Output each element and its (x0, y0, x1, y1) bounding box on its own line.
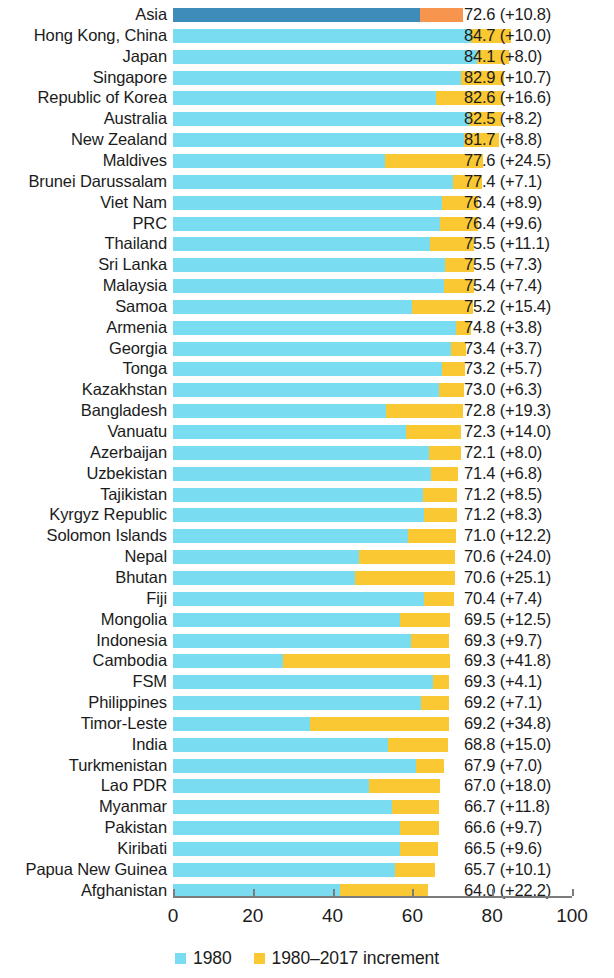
row-value-label: 74.8 (+3.8) (464, 317, 542, 338)
bar-segment-1980 (173, 383, 439, 397)
row-label-tonga: Tonga (123, 358, 167, 379)
bar-segment-1980 (173, 217, 440, 231)
bar-segment-increment (369, 779, 441, 793)
bar-segment-1980 (173, 654, 283, 668)
row-label-hong-kong-china: Hong Kong, China (34, 25, 167, 46)
row-value-label: 67.0 (+18.0) (464, 775, 551, 796)
bar-segment-increment (431, 467, 458, 481)
bar-segment-1980 (173, 842, 400, 856)
bar-segment-increment (408, 529, 457, 543)
row-label-timor-leste: Timor-Leste (81, 713, 167, 734)
row-label-japan: Japan (123, 46, 167, 67)
row-value-label: 71.2 (+8.5) (464, 484, 542, 505)
chart-row: Myanmar66.7 (+11.8) (0, 796, 614, 817)
row-value-label: 84.1 (+8.0) (464, 46, 542, 67)
chart-row: Malaysia75.4 (+7.4) (0, 275, 614, 296)
bar-segment-1980 (173, 175, 453, 189)
row-label-thailand: Thailand (105, 233, 168, 254)
bar-segment-increment (400, 821, 439, 835)
row-label-uzbekistan: Uzbekistan (86, 463, 167, 484)
row-value-label: 75.2 (+15.4) (464, 296, 551, 317)
bar-segment-1980 (173, 8, 420, 22)
bar-segment-increment (424, 592, 454, 606)
chart-row: Turkmenistan67.9 (+7.0) (0, 755, 614, 776)
bar-segment-increment (442, 362, 465, 376)
x-axis: 020406080100 (173, 896, 572, 897)
bar-segment-increment (420, 8, 463, 22)
bar-segment-1980 (173, 634, 411, 648)
chart-row: Samoa75.2 (+15.4) (0, 296, 614, 317)
row-value-label: 71.2 (+8.3) (464, 504, 542, 525)
bar-segment-increment (411, 634, 450, 648)
bar-segment-increment (400, 842, 438, 856)
chart-row: New Zealand81.7 (+8.8) (0, 129, 614, 150)
chart-row: FSM69.3 (+4.1) (0, 671, 614, 692)
row-label-asia: Asia (135, 4, 167, 25)
row-label-samoa: Samoa (115, 296, 167, 317)
chart-row: Hong Kong, China84.7 (+10.0) (0, 25, 614, 46)
row-label-fiji: Fiji (146, 588, 167, 609)
chart-row: Tajikistan71.2 (+8.5) (0, 484, 614, 505)
bar-segment-increment (395, 863, 435, 877)
bar-segment-1980 (173, 613, 400, 627)
bar-segment-increment (400, 613, 450, 627)
bar-segment-increment (421, 696, 449, 710)
x-axis-tick-label: 80 (482, 905, 503, 927)
row-value-label: 69.5 (+12.5) (464, 609, 551, 630)
chart-row: Australia82.5 (+8.2) (0, 108, 614, 129)
row-label-kiribati: Kiribati (117, 838, 167, 859)
bar-segment-1980 (173, 592, 424, 606)
bar-segment-increment (439, 383, 464, 397)
row-value-label: 82.6 (+16.6) (464, 87, 551, 108)
x-axis-tick (333, 889, 335, 896)
chart-row: Azerbaijan72.1 (+8.0) (0, 442, 614, 463)
legend-label: 1980 (193, 948, 232, 969)
chart-row: Asia72.6 (+10.8) (0, 4, 614, 25)
row-label-prc: PRC (132, 213, 167, 234)
chart-row: Timor-Leste69.2 (+34.8) (0, 713, 614, 734)
row-value-label: 68.8 (+15.0) (464, 734, 551, 755)
bar-segment-1980 (173, 71, 461, 85)
bar-segment-1980 (173, 759, 416, 773)
bar-segment-1980 (173, 488, 423, 502)
bar-segment-increment (386, 404, 463, 418)
row-value-label: 75.5 (+11.1) (464, 233, 550, 254)
row-value-label: 71.0 (+12.2) (464, 525, 551, 546)
bar-segment-1980 (173, 717, 310, 731)
row-value-label: 75.5 (+7.3) (464, 254, 542, 275)
chart-row: Armenia74.8 (+3.8) (0, 317, 614, 338)
x-axis-tick-label: 100 (556, 905, 588, 927)
row-value-label: 69.3 (+4.1) (464, 671, 542, 692)
row-value-label: 84.7 (+10.0) (464, 25, 551, 46)
chart-row: Bhutan70.6 (+25.1) (0, 567, 614, 588)
chart-row: Mongolia69.5 (+12.5) (0, 609, 614, 630)
row-label-indonesia: Indonesia (96, 630, 167, 651)
bar-segment-1980 (173, 446, 429, 460)
bar-segment-1980 (173, 237, 430, 251)
row-value-label: 77.6 (+24.5) (464, 150, 551, 171)
row-label-australia: Australia (104, 108, 167, 129)
chart-row: Cambodia69.3 (+41.8) (0, 650, 614, 671)
chart-row: Viet Nam76.4 (+8.9) (0, 192, 614, 213)
x-axis-tick-label: 60 (402, 905, 423, 927)
row-value-label: 69.3 (+9.7) (464, 630, 542, 651)
chart-row: Solomon Islands71.0 (+12.2) (0, 525, 614, 546)
x-axis-tick-label: 40 (322, 905, 343, 927)
row-label-brunei-darussalam: Brunei Darussalam (28, 171, 167, 192)
row-value-label: 73.2 (+5.7) (464, 358, 542, 379)
row-value-label: 66.7 (+11.8) (464, 796, 550, 817)
row-value-label: 70.4 (+7.4) (464, 588, 542, 609)
x-axis-tick (253, 889, 255, 896)
row-label-kazakhstan: Kazakhstan (82, 379, 167, 400)
chart-row: Kazakhstan73.0 (+6.3) (0, 379, 614, 400)
chart-legend: 19801980–2017 increment (0, 948, 614, 969)
row-value-label: 70.6 (+24.0) (464, 546, 551, 567)
bar-segment-increment (283, 654, 450, 668)
legend-swatch-increment (254, 953, 265, 964)
bar-segment-increment (406, 425, 462, 439)
bar-segment-1980 (173, 550, 359, 564)
bar-segment-increment (392, 800, 439, 814)
chart-row: Pakistan66.6 (+9.7) (0, 817, 614, 838)
row-value-label: 82.5 (+8.2) (464, 108, 542, 129)
x-axis-tick (572, 889, 574, 896)
